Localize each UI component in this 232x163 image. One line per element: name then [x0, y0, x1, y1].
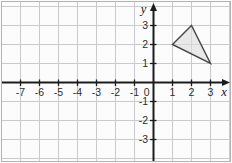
y-tick-label: -2: [139, 114, 148, 126]
y-axis-letter: y: [139, 2, 147, 16]
y-tick-label: 3: [142, 19, 148, 31]
y-tick-label: 1: [142, 57, 148, 69]
coordinate-plane-figure: -7-6-5-4-3-2-11230321-1-2-3xy: [0, 0, 232, 163]
x-tick-label: -5: [54, 86, 63, 98]
y-tick-label: -3: [139, 133, 148, 145]
coordinate-plane-svg: -7-6-5-4-3-2-11230321-1-2-3xy: [0, 0, 232, 163]
x-tick-label: -6: [35, 86, 44, 98]
x-tick-label: -2: [111, 86, 120, 98]
y-tick-label: -1: [139, 95, 148, 107]
x-tick-label: 1: [170, 86, 176, 98]
x-tick-label: -4: [73, 86, 82, 98]
x-tick-label: 3: [208, 86, 214, 98]
x-tick-label: -7: [16, 86, 25, 98]
x-tick-label: 2: [189, 86, 195, 98]
y-tick-label: 2: [142, 38, 148, 50]
x-tick-label: -3: [92, 86, 101, 98]
x-axis-letter: x: [220, 85, 227, 99]
